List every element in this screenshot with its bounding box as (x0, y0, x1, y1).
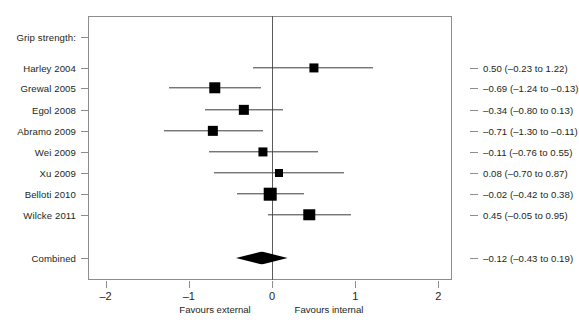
value-tick (470, 173, 478, 174)
x-axis-tick (106, 281, 107, 288)
study-row-label: Wei 2009 (35, 147, 76, 158)
summary-row-label: Combined (31, 253, 76, 264)
y-axis-tick (81, 68, 88, 69)
study-effect-value: –0.71 (–1.30 to –0.11) (483, 126, 578, 137)
study-effect-value: –0.11 (–0.76 to 0.55) (483, 147, 572, 158)
point-estimate-marker (264, 188, 277, 201)
plot-title (0, 0, 574, 4)
plot-frame (88, 16, 452, 280)
x-axis-tick (438, 281, 439, 288)
x-axis-tick-label: –1 (183, 290, 195, 302)
y-axis-tick (81, 173, 88, 174)
y-axis-tick (81, 194, 88, 195)
x-axis-tick-label: 2 (435, 290, 441, 302)
x-axis-tick-label: –2 (99, 290, 111, 302)
y-axis-tick (81, 131, 88, 132)
study-row-label: Harley 2004 (23, 63, 76, 74)
y-axis-tick (81, 215, 88, 216)
point-estimate-marker (258, 147, 267, 156)
point-estimate-marker (208, 126, 218, 136)
study-row-label: Xu 2009 (40, 168, 76, 179)
favours-internal-label: Favours internal (295, 304, 364, 315)
y-axis-tick (81, 152, 88, 153)
value-tick (470, 215, 478, 216)
study-effect-value: 0.50 (–0.23 to 1.22) (483, 63, 568, 74)
value-tick (470, 110, 478, 111)
x-axis-tick (189, 281, 190, 288)
study-row-label: Wilcke 2011 (23, 210, 76, 221)
y-axis-tick (81, 88, 88, 89)
x-axis-tick (272, 281, 273, 288)
y-axis-tick (81, 110, 88, 111)
value-tick (470, 88, 478, 89)
value-tick (470, 152, 478, 153)
point-estimate-marker (309, 63, 318, 72)
summary-effect-value: –0.12 (–0.43 to 0.19) (483, 253, 573, 264)
value-tick (470, 131, 478, 132)
value-tick (470, 258, 478, 259)
y-axis-tick (81, 37, 88, 38)
summary-diamond (236, 252, 288, 265)
study-effect-value: 0.45 (–0.05 to 0.95) (483, 210, 568, 221)
study-row-label: Belloti 2010 (25, 189, 76, 200)
point-estimate-marker (239, 105, 249, 115)
group-header-label: Grip strength: (16, 32, 76, 43)
study-row-label: Egol 2008 (32, 105, 76, 116)
null-effect-line (272, 16, 273, 280)
point-estimate-marker (275, 169, 283, 177)
y-axis-tick (81, 258, 88, 259)
x-axis-tick-label: 1 (352, 290, 358, 302)
study-row-label: Abramo 2009 (17, 126, 76, 137)
study-effect-value: 0.08 (–0.70 to 0.87) (483, 168, 568, 179)
favours-external-label: Favours external (179, 304, 250, 315)
point-estimate-marker (304, 209, 315, 220)
x-axis-tick (355, 281, 356, 288)
x-axis-tick-label: 0 (269, 290, 275, 302)
study-row-label: Grewal 2005 (21, 83, 77, 94)
study-effect-value: –0.34 (–0.80 to 0.13) (483, 105, 573, 116)
study-effect-value: –0.02 (–0.42 to 0.38) (483, 189, 573, 200)
study-effect-value: –0.69 (–1.24 to –0.13) (483, 83, 579, 94)
point-estimate-marker (209, 82, 220, 93)
value-tick (470, 194, 478, 195)
value-tick (470, 68, 478, 69)
